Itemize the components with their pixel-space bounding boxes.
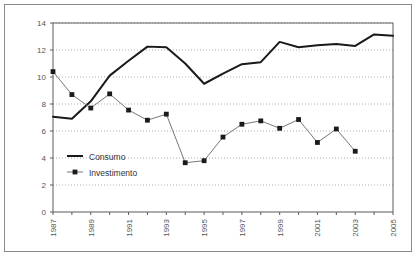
- series-marker-investimento: [353, 149, 358, 154]
- x-tick-label: 1989: [87, 218, 96, 236]
- chart-figure: 0246810121419871989199119931995199719992…: [0, 0, 416, 256]
- x-tick-label: 2001: [313, 218, 322, 236]
- y-tick-label: 4: [42, 154, 47, 163]
- x-tick-label: 1991: [125, 218, 134, 236]
- series-marker-investimento: [183, 160, 188, 165]
- series-marker-investimento: [69, 92, 74, 97]
- series-marker-investimento: [164, 112, 169, 117]
- series-marker-investimento: [51, 69, 56, 74]
- legend-label-consumo: Consumo: [89, 152, 126, 162]
- series-marker-investimento: [107, 91, 112, 96]
- y-tick-label: 10: [37, 73, 46, 82]
- x-tick-label: 2005: [389, 218, 398, 236]
- y-tick-label: 2: [42, 181, 47, 190]
- legend-label-investimento: Investimento: [89, 168, 137, 178]
- x-tick-label: 1997: [238, 218, 247, 236]
- series-marker-investimento: [145, 118, 150, 123]
- chart-outer-border: 0246810121419871989199119931995199719992…: [4, 4, 412, 252]
- series-marker-investimento: [296, 117, 301, 122]
- x-tick-label: 1999: [276, 218, 285, 236]
- plot-background: [53, 23, 393, 212]
- y-tick-label: 14: [37, 19, 46, 28]
- series-marker-investimento: [334, 127, 339, 132]
- series-marker-investimento: [88, 106, 93, 111]
- x-tick-label: 1995: [200, 218, 209, 236]
- series-marker-investimento: [277, 126, 282, 131]
- series-marker-investimento: [239, 122, 244, 127]
- y-tick-label: 0: [42, 208, 47, 217]
- line-chart: 0246810121419871989199119931995199719992…: [5, 5, 413, 253]
- y-tick-label: 6: [42, 127, 47, 136]
- x-tick-label: 2003: [351, 218, 360, 236]
- series-marker-investimento: [315, 140, 320, 145]
- y-tick-label: 8: [42, 100, 47, 109]
- series-marker-investimento: [202, 158, 207, 163]
- x-tick-label: 1993: [162, 218, 171, 236]
- legend-marker-investimento: [73, 170, 78, 175]
- series-marker-investimento: [126, 108, 131, 113]
- y-tick-label: 12: [37, 46, 46, 55]
- series-marker-investimento: [258, 118, 263, 123]
- series-marker-investimento: [221, 135, 226, 140]
- x-tick-label: 1987: [49, 218, 58, 236]
